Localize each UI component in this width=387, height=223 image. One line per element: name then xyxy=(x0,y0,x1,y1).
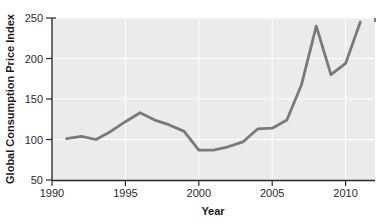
ytick-label-100: 100 xyxy=(25,134,43,146)
chart-figure: 250 200 150 100 50 1990 1995 2000 2005 2… xyxy=(0,0,387,223)
xtick-label-2010: 2010 xyxy=(333,187,357,199)
price-index-line-chart: 250 200 150 100 50 1990 1995 2000 2005 2… xyxy=(0,0,387,223)
ytick-label-250: 250 xyxy=(25,12,43,24)
xtick-label-1995: 1995 xyxy=(113,187,137,199)
xtick-label-2000: 2000 xyxy=(187,187,211,199)
xtick-label-2005: 2005 xyxy=(260,187,284,199)
x-axis-title: Year xyxy=(201,205,225,217)
ytick-label-200: 200 xyxy=(25,53,43,65)
xtick-label-1990: 1990 xyxy=(40,187,64,199)
y-axis-title: Global Consumption Price Index xyxy=(4,13,16,184)
ytick-label-50: 50 xyxy=(31,174,43,186)
ytick-label-150: 150 xyxy=(25,93,43,105)
